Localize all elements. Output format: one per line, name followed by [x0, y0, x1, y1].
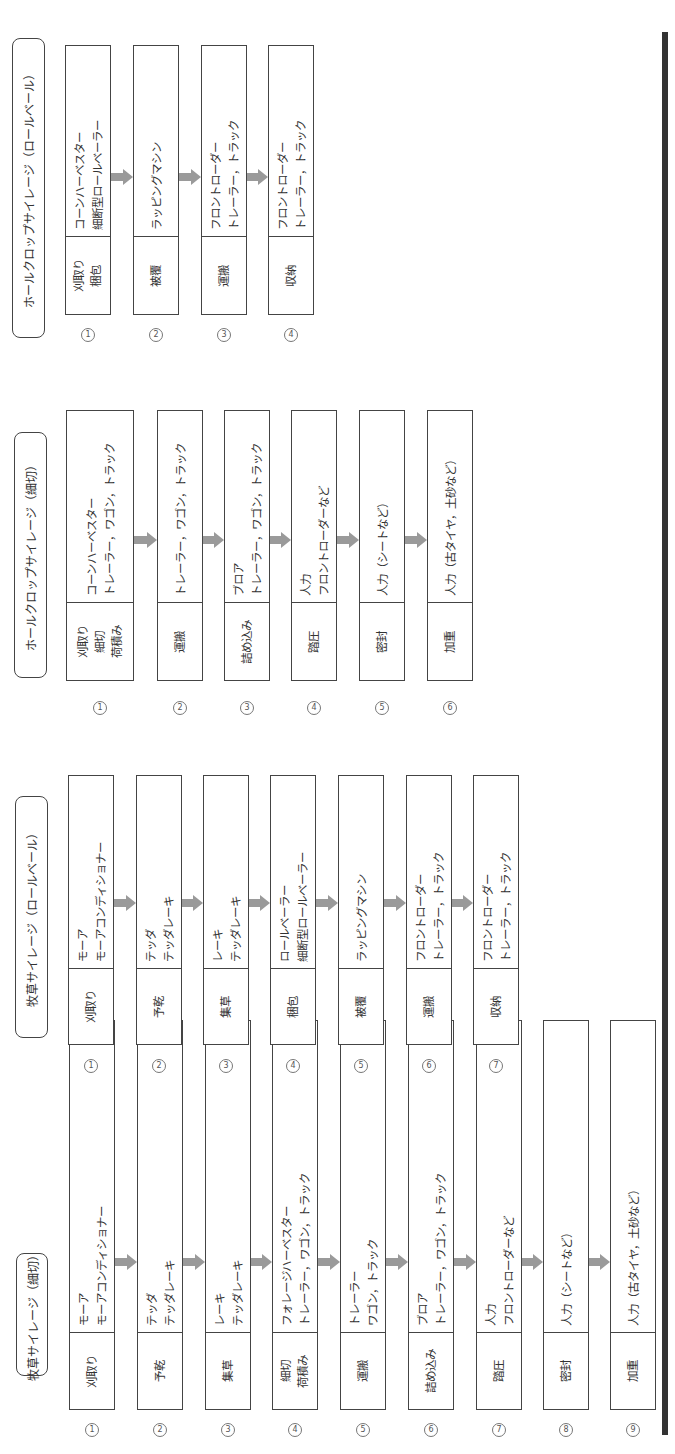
equipment-line: モーアコンディショナー — [92, 776, 110, 962]
step-equipment: 人力（シートなど） — [360, 411, 404, 602]
step-label-line: 運搬 — [355, 1360, 372, 1382]
step-label-line: 刈取り — [75, 625, 92, 658]
step-label-line: 荷積み — [295, 1355, 312, 1388]
step-row: 刈取り梱包コーンハーベスター細断型ロールベーラー — [65, 45, 111, 315]
step-label-line: 刈取り — [83, 990, 100, 1023]
equipment-line: 細断型ロールベーラー — [294, 776, 312, 962]
step-row: 収納フロントローダートレーラー，トラック — [268, 45, 314, 315]
step-equipment: フロントローダートレーラー，トラック — [202, 46, 246, 236]
step-label: 予乾 — [138, 1332, 182, 1409]
step-row: 集草レーキテッダレーキ — [203, 775, 249, 1045]
flow-arrow-icon — [111, 169, 133, 185]
step-label-line: 被覆 — [148, 265, 165, 287]
step-label: 刈取り — [69, 968, 113, 1044]
step-label-line: 踏圧 — [306, 631, 323, 653]
step-number: 8 — [559, 1423, 573, 1437]
step-row: 加重人力（古タイヤ，土砂など） — [427, 410, 473, 681]
step-number: 4 — [286, 1059, 300, 1073]
step-label-line: 被覆 — [353, 996, 370, 1018]
flow-arrow-icon — [115, 1254, 137, 1270]
flow-arrow-icon — [251, 1254, 272, 1270]
equipment-line: ラッピングマシン — [353, 776, 371, 962]
equipment-line: フロントローダー — [479, 776, 497, 962]
flow-arrow-icon — [134, 532, 157, 548]
flow-arrow-icon — [386, 1254, 408, 1270]
flow-arrow-icon — [452, 895, 473, 911]
step-label-line: 集草 — [218, 996, 235, 1018]
step-row: 詰め込みブロアトレーラー，ワゴン，トラック — [408, 1020, 454, 1410]
step-number: 7 — [492, 1423, 506, 1437]
step-equipment: コーンハーベスタートレーラー，ワゴン，トラック — [67, 411, 133, 602]
flow-arrow-icon — [454, 1254, 476, 1270]
step-label: 密封 — [360, 602, 404, 680]
step-label: 踏圧 — [477, 1332, 521, 1409]
step-equipment: フロントローダートレーラー，トラック — [474, 776, 518, 968]
equipment-line: トレーラー，トラック — [430, 776, 448, 962]
step-number: 6 — [424, 1423, 438, 1437]
section-title-grass-silage-chopped: 牧草サイレージ（細切） — [16, 1253, 48, 1376]
step-number: 2 — [153, 1423, 167, 1437]
step-label: 刈取り — [70, 1332, 114, 1409]
equipment-line: テッダレーキ — [227, 776, 245, 962]
equipment-line: テッダレーキ — [160, 776, 178, 962]
step-equipment: ラッピングマシン — [134, 46, 178, 236]
step-equipment: レーキテッダレーキ — [204, 776, 248, 968]
step-label-line: 詰め込み — [423, 1349, 440, 1393]
step-number: 1 — [81, 328, 95, 342]
silage-workflow-diagram: 牧草サイレージ（細切） 牧草サイレージ（ロールベール） ホールクロップサイレージ… — [0, 0, 675, 1454]
step-equipment: 人力（古タイヤ，土砂など） — [611, 1021, 655, 1332]
step-row: 運搬フロントローダートレーラー，トラック — [201, 45, 247, 315]
step-number: 5 — [356, 1423, 370, 1437]
equipment-line: コーンハーベスター — [83, 411, 101, 596]
step-number: 9 — [626, 1423, 640, 1437]
step-equipment: フロントローダートレーラー，トラック — [269, 46, 313, 236]
step-number: 4 — [284, 328, 298, 342]
equipment-line: フロントローダーなど — [315, 411, 333, 596]
step-label-line: 運搬 — [172, 631, 189, 653]
step-number: 1 — [85, 1423, 99, 1437]
section-title-grass-silage-rollbale: 牧草サイレージ（ロールベール） — [15, 796, 48, 1038]
step-equipment: コーンハーベスター細断型ロールベーラー — [66, 46, 110, 236]
equipment-line: 人力（古タイヤ，土砂など） — [625, 1021, 643, 1326]
step-number: 4 — [307, 701, 321, 715]
equipment-line: テッダ — [142, 776, 160, 962]
step-number: 1 — [84, 1059, 98, 1073]
step-label-line: 運搬 — [216, 265, 233, 287]
step-label: 踏圧 — [292, 602, 336, 680]
step-number: 2 — [149, 328, 163, 342]
equipment-line: トレーラー，ワゴン，トラック — [248, 411, 266, 596]
step-equipment: 人力（シートなど） — [544, 1021, 588, 1332]
step-label: 詰め込み — [225, 602, 269, 680]
step-number: 6 — [422, 1059, 436, 1073]
step-equipment: ロールベーラー細断型ロールベーラー — [271, 776, 315, 968]
step-row: 予乾テッダテッダレーキ — [136, 775, 182, 1045]
flow-arrow-icon — [182, 895, 203, 911]
equipment-line: 細断型ロールベーラー — [89, 46, 107, 230]
step-label-line: 梱包 — [285, 996, 302, 1018]
step-label: 収納 — [269, 236, 313, 314]
flow-arrow-icon — [270, 532, 291, 548]
equipment-line: トレーラー，トラック — [497, 776, 515, 962]
step-label-line: 収納 — [488, 996, 505, 1018]
step-label: 集草 — [206, 1332, 250, 1409]
equipment-line: フロントローダー — [207, 46, 225, 230]
step-number: 3 — [217, 328, 231, 342]
flow-arrow-icon — [179, 169, 201, 185]
step-label-line: 集草 — [220, 1360, 237, 1382]
step-equipment: モーアモーアコンディショナー — [69, 776, 113, 968]
step-number: 6 — [443, 701, 457, 715]
step-label: 密封 — [544, 1332, 588, 1409]
step-label-line: 予乾 — [151, 996, 168, 1018]
step-equipment: テッダテッダレーキ — [137, 776, 181, 968]
step-label: 被覆 — [339, 968, 383, 1044]
step-equipment: フロントローダートレーラー，トラック — [407, 776, 451, 968]
step-label: 運搬 — [407, 968, 451, 1044]
flow-arrow-icon — [337, 532, 359, 548]
step-number: 3 — [221, 1423, 235, 1437]
step-label: 加重 — [611, 1332, 655, 1409]
step-label: 細切荷積み — [273, 1332, 317, 1409]
step-row: 刈取りモーアモーアコンディショナー — [68, 775, 114, 1045]
step-row: 収納フロントローダートレーラー，トラック — [473, 775, 519, 1045]
step-row: 刈取りモーアモーアコンディショナー — [69, 1020, 115, 1410]
step-row: 集草レーキテッダレーキ — [205, 1020, 251, 1410]
